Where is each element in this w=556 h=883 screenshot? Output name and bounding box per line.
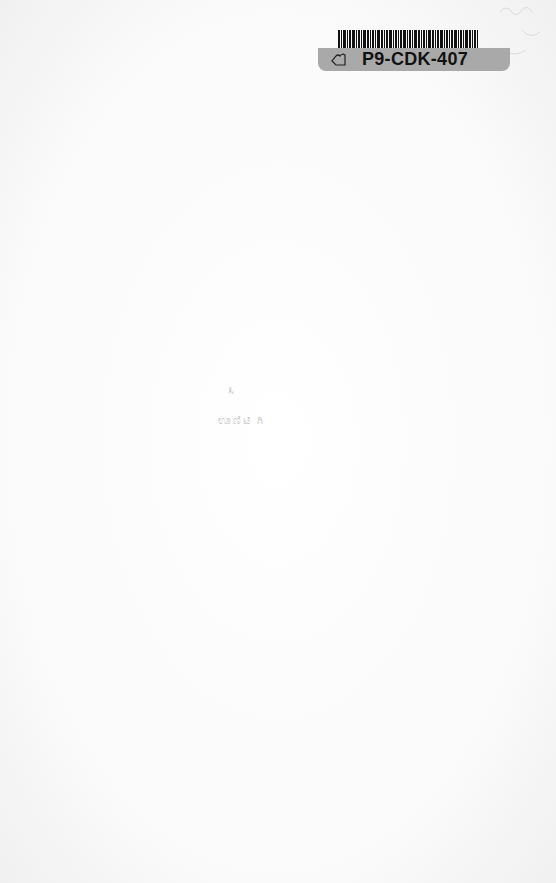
scanned-page: P9-CDK-407 ಸಿ ಊಣಿಟಿ ಗಿ bbox=[0, 0, 556, 883]
barcode bbox=[338, 30, 506, 48]
library-barcode-label: P9-CDK-407 bbox=[318, 26, 510, 72]
bleed-through-text-2: ಊಣಿಟಿ ಗಿ bbox=[218, 414, 265, 427]
outline-leaf-icon bbox=[330, 52, 348, 68]
bleed-through-text-1: ಸಿ bbox=[228, 384, 236, 397]
call-number: P9-CDK-407 bbox=[362, 49, 468, 70]
call-number-tag: P9-CDK-407 bbox=[318, 48, 510, 71]
